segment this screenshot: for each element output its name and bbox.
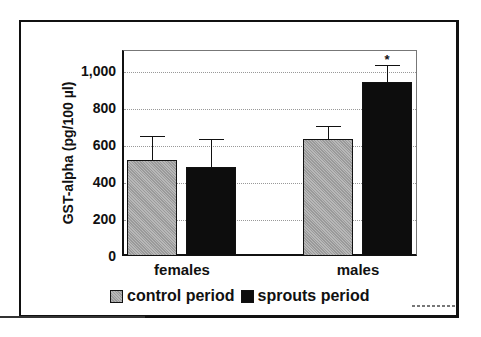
bar-sprouts-females bbox=[186, 167, 236, 256]
y-tick-label: 400 bbox=[56, 174, 116, 190]
footer-fine-print bbox=[412, 305, 456, 307]
y-tick-label: 600 bbox=[56, 137, 116, 153]
error-cap bbox=[316, 126, 341, 127]
x-label-females: females bbox=[154, 261, 210, 278]
gridline bbox=[124, 72, 416, 73]
error-bar bbox=[152, 136, 153, 160]
y-tick-label: 800 bbox=[56, 100, 116, 116]
error-bar bbox=[328, 126, 329, 139]
error-bar bbox=[211, 139, 212, 167]
legend-label-sprouts: sprouts period bbox=[258, 287, 370, 305]
decorative-line bbox=[0, 316, 145, 318]
legend-swatch-sprouts bbox=[241, 290, 254, 303]
y-tick-label: 200 bbox=[56, 211, 116, 227]
error-cap bbox=[199, 139, 224, 140]
bar-sprouts-males bbox=[362, 82, 412, 256]
bar-control-females bbox=[127, 160, 177, 256]
error-bar bbox=[387, 65, 388, 82]
bar-control-males bbox=[303, 139, 353, 256]
legend: control period sprouts period bbox=[110, 287, 370, 305]
error-cap bbox=[140, 136, 165, 137]
legend-label-control: control period bbox=[127, 287, 235, 305]
y-tick-label: 1,000 bbox=[56, 63, 116, 79]
legend-swatch-control bbox=[110, 290, 123, 303]
significance-star: * bbox=[384, 52, 389, 67]
y-tick-label: 0 bbox=[56, 248, 116, 264]
x-label-males: males bbox=[337, 261, 380, 278]
